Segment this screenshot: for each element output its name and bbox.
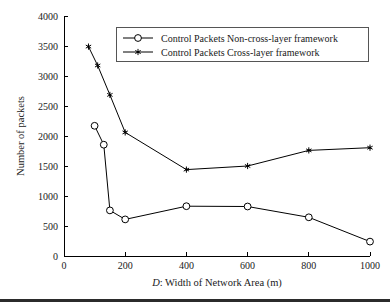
series-line	[88, 47, 370, 170]
series-1	[86, 44, 373, 173]
y-tick-label: 3000	[38, 71, 58, 82]
footer-rule	[0, 299, 390, 302]
data-point-circle	[183, 203, 190, 210]
legend-label: Control Packets Non-cross-layer framewor…	[161, 33, 338, 44]
data-point-star	[123, 129, 128, 135]
data-point-circle	[107, 207, 114, 214]
x-tick-label: 800	[301, 260, 316, 271]
y-tick-label: 500	[43, 221, 58, 232]
x-axis-title: D: Width of Network Area (m)	[151, 277, 282, 289]
y-tick-label: 1500	[38, 161, 58, 172]
series-line	[95, 126, 370, 242]
legend-marker-circle	[135, 35, 142, 42]
x-tick-label: 200	[118, 260, 133, 271]
y-tick-label: 1000	[38, 191, 58, 202]
y-tick-label: 2000	[38, 131, 58, 142]
data-point-circle	[91, 122, 98, 129]
y-tick-label: 3500	[38, 41, 58, 52]
data-series	[86, 44, 374, 246]
x-tick-label: 600	[240, 260, 255, 271]
x-tick-label: 1000	[360, 260, 380, 271]
y-tick-label: 0	[53, 251, 58, 262]
series-0	[91, 122, 373, 245]
data-point-circle	[367, 238, 374, 245]
data-point-star	[107, 92, 112, 98]
y-axis-title: Number of packets	[15, 96, 26, 176]
x-tick-label: 0	[62, 260, 67, 271]
data-point-star	[95, 62, 100, 68]
data-point-circle	[100, 141, 107, 148]
data-point-star	[86, 44, 91, 50]
x-tick-label: 400	[179, 260, 194, 271]
line-chart: 0500100015002000250030003500400002004006…	[0, 0, 390, 308]
legend-label: Control Packets Cross-layer framework	[161, 47, 320, 58]
data-point-circle	[305, 214, 312, 221]
chart-legend: Control Packets Non-cross-layer framewor…	[116, 27, 368, 61]
figure-container: 0500100015002000250030003500400002004006…	[0, 0, 390, 308]
data-point-circle	[244, 203, 251, 210]
y-tick-label: 2500	[38, 101, 58, 112]
data-point-circle	[122, 216, 129, 223]
y-tick-label: 4000	[38, 11, 58, 22]
